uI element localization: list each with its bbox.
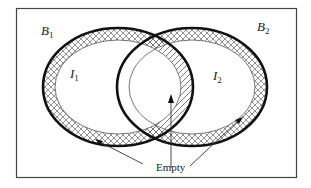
venn-diagram: B1 B2 I1 I2 Empty <box>0 0 311 188</box>
empty-annotation-label: Empty <box>156 161 186 173</box>
